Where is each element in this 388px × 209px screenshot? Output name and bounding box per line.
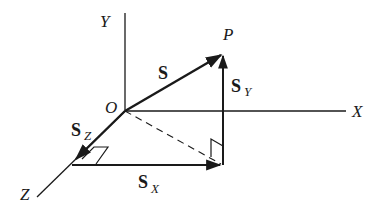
point-p-label: P (222, 25, 233, 44)
projection-dashed-line (125, 111, 221, 164)
x-axis-label: X (351, 102, 363, 121)
vector-s-y-subscript: Y (244, 84, 253, 99)
vector-s-x-label: S (138, 172, 148, 192)
vector-components-diagram: Y X Z O P S S Y S Z S X (0, 0, 388, 209)
vector-s-x-subscript: X (150, 181, 160, 196)
vector-s-z-label: S (71, 120, 81, 140)
vector-s-z-subscript: Z (84, 128, 92, 143)
right-angle-marker-foot (211, 139, 223, 157)
vector-s (125, 55, 221, 111)
vector-s-y-label: S (231, 76, 241, 96)
vector-s-label: S (158, 63, 168, 83)
z-axis-label: Z (20, 185, 30, 204)
y-axis-label: Y (100, 12, 111, 31)
origin-label: O (105, 98, 117, 117)
